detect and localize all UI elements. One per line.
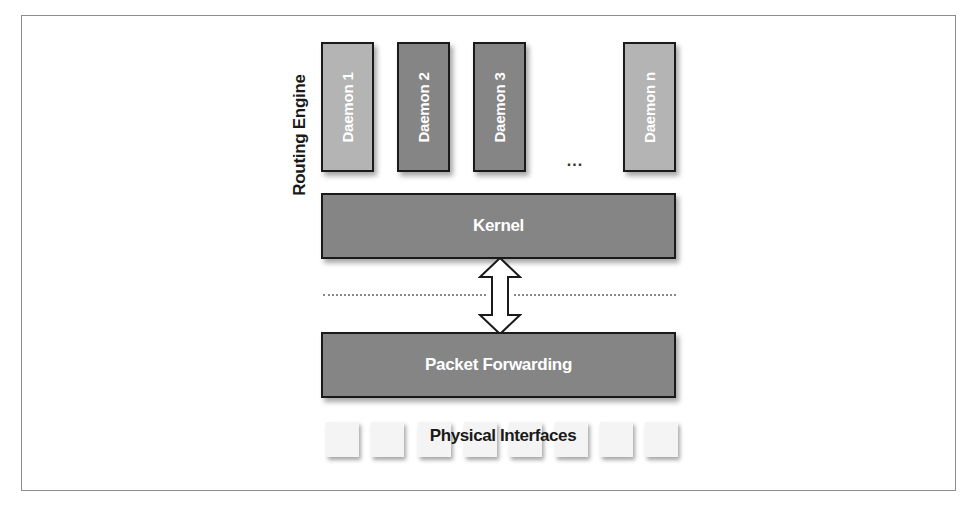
daemon-3-label: Daemon 3 bbox=[491, 72, 508, 142]
daemon-n-box: Daemon n bbox=[623, 42, 676, 172]
routing-engine-label: Routing Engine bbox=[282, 40, 318, 230]
daemon-2-label: Daemon 2 bbox=[415, 72, 432, 142]
boundary-dotted-line-right bbox=[514, 294, 676, 296]
packet-forwarding-box: Packet Forwarding bbox=[321, 332, 676, 398]
daemon-1-label: Daemon 1 bbox=[339, 72, 356, 142]
physical-interface-1 bbox=[326, 422, 359, 457]
physical-interfaces-label: Physical Interfaces bbox=[418, 426, 588, 446]
packet-forwarding-label: Packet Forwarding bbox=[425, 355, 572, 375]
physical-interface-8 bbox=[645, 422, 678, 457]
routing-engine-text: Routing Engine bbox=[290, 74, 310, 195]
bidirectional-arrow-icon bbox=[478, 257, 522, 335]
daemon-1-box: Daemon 1 bbox=[321, 42, 374, 172]
physical-interface-7 bbox=[600, 422, 633, 457]
kernel-label: Kernel bbox=[473, 216, 524, 236]
ellipsis: ... bbox=[560, 152, 590, 170]
kernel-box: Kernel bbox=[321, 193, 676, 259]
daemon-3-box: Daemon 3 bbox=[473, 42, 526, 172]
boundary-dotted-line-left bbox=[323, 294, 486, 296]
daemon-2-box: Daemon 2 bbox=[397, 42, 450, 172]
physical-interface-2 bbox=[371, 422, 404, 457]
daemon-n-label: Daemon n bbox=[641, 72, 658, 143]
